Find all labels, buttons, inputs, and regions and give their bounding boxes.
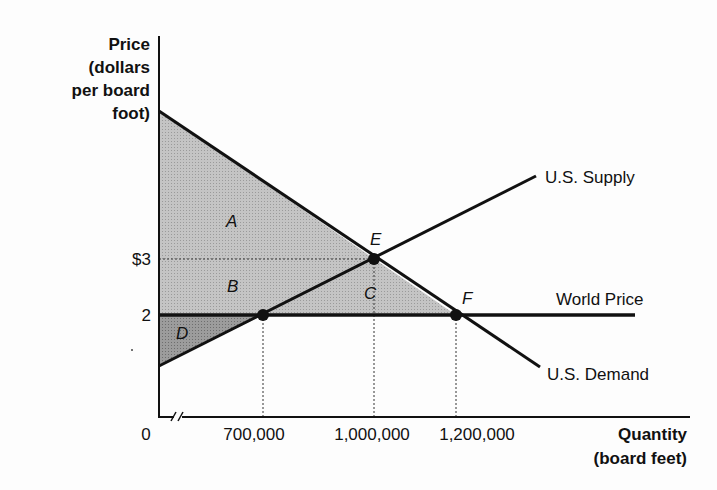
tariff-chart: Price (dollars per board foot) $3 2 0 70… [0, 0, 717, 490]
y-axis-title-line-4: foot) [112, 104, 150, 123]
y-axis-title-line-2: (dollars [89, 58, 150, 77]
x-tick-1200000: 1,200,000 [439, 425, 515, 444]
y-tick-2: 2 [142, 306, 151, 325]
point-f-label: F [462, 289, 474, 308]
y-axis-title-line-3: per board [72, 81, 150, 100]
x-tick-0: 0 [141, 425, 150, 444]
region-c-label: C [364, 284, 377, 303]
supply-label: U.S. Supply [545, 168, 635, 187]
world-price-label: World Price [556, 290, 644, 309]
y-axis-title-line-1: Price [108, 35, 150, 54]
y-tick-3: $3 [132, 250, 151, 269]
x-tick-700000: 700,000 [223, 425, 284, 444]
point-f-marker [450, 309, 462, 321]
x-axis-title-line-1: Quantity [618, 425, 687, 444]
region-b-label: B [227, 277, 238, 296]
point-supply-world-marker [257, 309, 269, 321]
scan-artifact-dot [131, 349, 133, 351]
x-axis-title-line-2: (board feet) [594, 449, 688, 468]
demand-label: U.S. Demand [547, 365, 649, 384]
x-tick-1000000: 1,000,000 [334, 425, 410, 444]
point-e-marker [368, 253, 380, 265]
region-a-label: A [225, 212, 237, 231]
region-d-label: D [176, 324, 188, 343]
point-e-label: E [370, 230, 382, 249]
